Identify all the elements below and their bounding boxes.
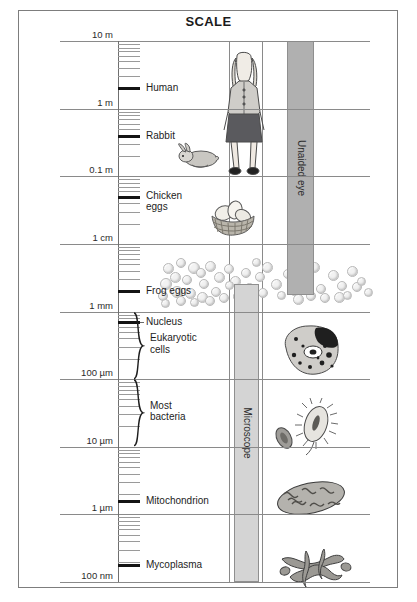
frog-egg [277,291,286,300]
frog-egg [320,293,330,303]
bracket-eukaryotic-cells [133,312,145,380]
range-bar-label: Unaided eye [295,140,306,196]
decade-gridline [60,244,370,245]
item-label-human: Human [146,82,178,94]
mitochondrion-figure [272,478,350,518]
decade-gridline [60,109,370,110]
range-bar-unaided-eye: Unaided eye [287,41,314,295]
minor-tick [118,115,140,116]
frog-egg [205,261,216,272]
minor-tick [118,247,140,248]
frog-egg [347,266,358,277]
frog-egg [199,279,209,289]
frog-egg [364,288,373,297]
minor-tick [118,48,140,49]
minor-tick [118,203,140,204]
frog-egg [328,270,339,281]
frog-egg [161,299,170,308]
decade-label: 0.1 m [60,164,113,175]
minor-tick [118,271,140,272]
item-marker-chicken-eggs [118,196,140,199]
item-label-nucleus: Nucleus [146,316,182,328]
range-bar-microscope: Microscope [234,284,259,582]
minor-tick [118,112,140,113]
decade-label: 100 nm [60,570,113,581]
minor-tick [118,494,140,495]
frog-egg [196,268,206,278]
frog-egg [182,275,192,285]
minor-tick [118,450,140,451]
item-marker-frog-eggs [118,290,140,293]
minor-tick [118,467,140,468]
minor-tick [118,191,140,192]
frog-egg [337,281,347,291]
minor-tick [118,541,140,542]
frog-egg [241,268,251,278]
minor-tick [118,462,140,463]
eukaryotic-cell [272,322,346,380]
frog-egg [190,298,199,307]
minor-tick [118,535,140,536]
minor-tick [118,517,140,518]
minor-tick [118,156,140,157]
frog-egg [357,277,366,286]
decade-gridline [60,41,370,42]
minor-tick [118,183,140,184]
frog-egg [343,291,352,300]
decade-gridline [60,312,370,313]
minor-tick [118,264,140,265]
scale-diagram: SCALE 10 m1 m0.1 m1 cm1 mm100 µm10 µm1 µ… [0,0,417,602]
item-label-rabbit: Rabbit [146,130,175,142]
frog-egg [255,272,265,282]
item-marker-rabbit [118,135,140,138]
rabbit-figure [174,142,222,170]
minor-tick [118,119,140,120]
minor-tick [118,457,140,458]
frog-egg [293,294,304,305]
decade-label: 1 µm [60,502,113,513]
decade-label: 1 mm [60,300,113,311]
minor-tick [118,144,140,145]
decade-label: 1 m [60,97,113,108]
bracket-label-eukaryotic-cells: Eukaryoticcells [150,332,197,355]
minor-tick [118,187,140,188]
plot-area: 10 m1 m0.1 m1 cm1 mm100 µm10 µm1 µm100 n… [0,0,417,602]
frog-egg [214,272,225,283]
frog-egg [225,281,234,290]
item-label-mycoplasma: Mycoplasma [146,559,202,571]
item-label-mitochondrion: Mitochondrion [146,495,209,507]
minor-tick [118,521,140,522]
minor-tick [118,212,140,213]
range-bar-label: Microscope [241,408,252,459]
bracket-most-bacteria [133,379,145,447]
item-label-frog-eggs: Frog eggs [146,285,191,297]
bracket-label-most-bacteria: Mostbacteria [150,400,186,423]
decade-label: 100 µm [60,367,113,378]
minor-tick [118,254,140,255]
minor-tick [118,259,140,260]
minor-tick [118,44,140,45]
minor-tick [118,279,140,280]
minor-tick [118,56,140,57]
minor-tick [118,250,140,251]
minor-tick [118,68,140,69]
chicken-eggs-basket [204,198,260,238]
frog-egg [176,296,186,306]
minor-tick [118,124,140,125]
minor-tick [118,550,140,551]
frog-egg [252,258,261,267]
minor-tick [118,525,140,526]
item-marker-mitochondrion [118,500,140,503]
minor-tick [118,474,140,475]
decade-gridline [60,514,370,515]
frog-egg [176,258,186,268]
frog-egg [271,279,282,290]
frog-egg [205,296,215,306]
minor-tick [118,529,140,530]
frog-egg [258,288,268,298]
decade-gridline [60,176,370,177]
frog-egg [224,264,234,274]
minor-tick [118,224,140,225]
decade-gridline [60,379,370,380]
minor-tick [118,76,140,77]
